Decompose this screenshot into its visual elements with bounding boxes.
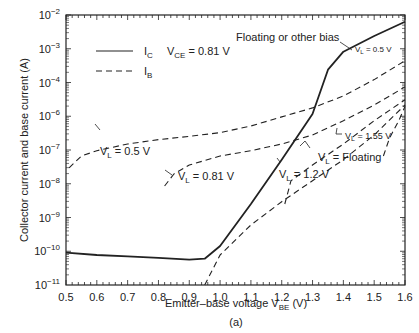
y-tick-label: 10−11 — [35, 277, 61, 291]
y-tick-label: 10−6 — [39, 108, 61, 122]
y-tick-label: 10−9 — [39, 210, 61, 224]
leader-line — [305, 141, 310, 148]
floating-bias-annotation: Floating or other bias — [236, 31, 340, 43]
y-axis-label: Collector current and base current (A) — [18, 58, 30, 242]
leader-line — [277, 158, 280, 162]
vl-155-annotation: VL = 1.55 V — [345, 131, 391, 142]
legend-ib-label: IB — [144, 65, 152, 80]
x-tick-label: 0.8 — [151, 291, 166, 303]
legend: IC IB VCE = 0.81 V — [96, 45, 230, 80]
y-tick-label: 10−8 — [39, 176, 61, 190]
figure-caption: (a) — [229, 316, 242, 328]
leader-line — [300, 141, 305, 146]
vce-annotation: VCE = 0.81 V — [167, 45, 230, 60]
y-tick-label: 10−2 — [39, 7, 61, 21]
x-tick-label: 1.4 — [336, 291, 351, 303]
legend-ic-label: IC — [144, 45, 153, 60]
y-tick-label: 10−4 — [39, 75, 61, 89]
chart-svg: 0.50.60.70.80.91.01.11.21.31.41.51.6 10−… — [0, 0, 419, 333]
x-tick-label: 0.5 — [58, 291, 73, 303]
y-tick-labels: 10−210−310−410−610−710−810−910−1010−11 — [34, 7, 60, 291]
leader-line — [336, 128, 337, 134]
x-tick-label: 1.6 — [397, 291, 412, 303]
x-tick-label: 0.7 — [120, 291, 135, 303]
vl-floating-annotation: VL = Floating — [318, 151, 381, 166]
vl-05-top-annotation: VL = 0.5 V — [355, 45, 392, 55]
x-tick-label: 1.3 — [305, 291, 320, 303]
x-tick-label: 1.5 — [367, 291, 382, 303]
vl-05-annotation: VL = 0.5 V — [100, 145, 151, 160]
leader-line — [165, 170, 172, 175]
vl-12-annotation: VL = 1.2 V — [279, 168, 330, 183]
y-tick-label: 10−3 — [39, 41, 61, 55]
leader-line — [95, 124, 100, 130]
leader-line — [340, 42, 352, 50]
y-tick-label: 10−7 — [39, 142, 61, 156]
vl-081-annotation: VL = 0.81 V — [178, 170, 235, 185]
y-tick-label: 10−10 — [34, 243, 60, 257]
x-tick-label: 0.6 — [89, 291, 104, 303]
